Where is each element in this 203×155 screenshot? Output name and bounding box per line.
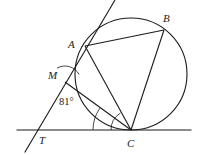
point-label-T: T (39, 135, 45, 146)
main-circle (75, 18, 187, 130)
angle-label-81-degrees: 81° (59, 97, 74, 108)
geometry-canvas (0, 0, 203, 155)
segment-AB (85, 30, 164, 46)
angle-arc-at-C-outer (93, 108, 100, 130)
point-label-C: C (127, 138, 134, 149)
segment-BC (131, 30, 164, 130)
point-label-A: A (68, 39, 75, 50)
point-label-B: B (163, 13, 170, 24)
point-label-M: M (48, 70, 57, 81)
segment-AC (85, 46, 131, 130)
geometry-figure: A B C M T 81° (0, 0, 203, 155)
segment-MC (65, 82, 131, 130)
